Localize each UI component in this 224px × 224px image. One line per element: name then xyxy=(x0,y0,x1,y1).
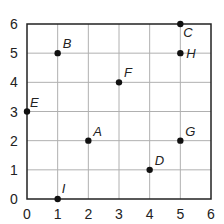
y-tick-label: 4 xyxy=(10,74,18,90)
y-tick-label: 5 xyxy=(10,45,18,61)
point-label: I xyxy=(62,181,66,196)
point-label: C xyxy=(183,25,193,40)
point-label: A xyxy=(92,124,102,139)
x-tick-label: 2 xyxy=(84,206,92,222)
point-label: E xyxy=(30,95,39,110)
x-tick-label: 5 xyxy=(176,206,184,222)
x-tick-label: 0 xyxy=(23,206,31,222)
y-tick-label: 2 xyxy=(10,133,18,149)
point-d-marker xyxy=(146,167,152,173)
point-label: F xyxy=(124,65,133,80)
y-tick-label: 1 xyxy=(10,162,18,178)
point-f-marker xyxy=(116,79,122,85)
x-tick-label: 1 xyxy=(54,206,62,222)
x-tick-label: 4 xyxy=(146,206,154,222)
y-tick-label: 3 xyxy=(10,104,18,120)
point-h-marker xyxy=(177,50,183,56)
point-g-marker xyxy=(177,137,183,143)
point-label: D xyxy=(155,153,164,168)
point-label: B xyxy=(63,36,72,51)
y-tick-label: 0 xyxy=(10,191,18,207)
coordinate-grid-chart: 01234560123456ABCDEFGHI xyxy=(0,0,224,224)
y-tick-label: 6 xyxy=(10,16,18,32)
point-a-marker xyxy=(85,137,91,143)
x-tick-label: 6 xyxy=(207,206,215,222)
point-i-marker xyxy=(54,196,60,202)
point-label: H xyxy=(186,46,196,61)
point-label: G xyxy=(185,124,195,139)
x-tick-label: 3 xyxy=(115,206,123,222)
point-b-marker xyxy=(54,50,60,56)
